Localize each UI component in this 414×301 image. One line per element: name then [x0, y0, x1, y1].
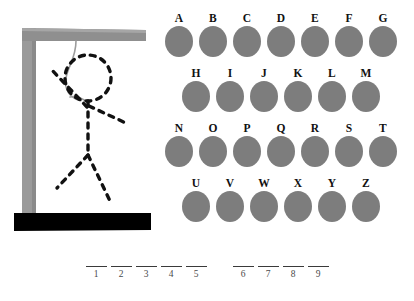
- letter-button-l[interactable]: L: [317, 67, 351, 122]
- letter-disc[interactable]: [250, 191, 278, 222]
- letter-button-q[interactable]: Q: [266, 122, 300, 177]
- letter-button-u[interactable]: U: [181, 177, 215, 232]
- gallows-illustration: [0, 0, 160, 245]
- letter-disc[interactable]: [165, 136, 193, 167]
- letter-label: O: [198, 122, 228, 135]
- letter-button-t[interactable]: T: [368, 122, 402, 177]
- letter-button-o[interactable]: O: [198, 122, 232, 177]
- letter-disc[interactable]: [284, 191, 312, 222]
- letter-disc[interactable]: [199, 26, 227, 57]
- letter-button-i[interactable]: I: [215, 67, 249, 122]
- letter-button-f[interactable]: F: [334, 12, 368, 67]
- letter-button-d[interactable]: D: [266, 12, 300, 67]
- letter-disc[interactable]: [182, 81, 210, 112]
- letter-label: G: [368, 12, 398, 25]
- letter-disc[interactable]: [301, 136, 329, 167]
- letter-button-g[interactable]: G: [368, 12, 402, 67]
- letter-disc[interactable]: [369, 26, 397, 57]
- blank-slot: 7: [258, 255, 279, 280]
- letter-disc[interactable]: [165, 26, 193, 57]
- letter-disc[interactable]: [199, 136, 227, 167]
- blank-letter: [186, 255, 207, 266]
- letter-disc[interactable]: [250, 81, 278, 112]
- blank-line: [111, 266, 132, 267]
- letter-label: A: [164, 12, 194, 25]
- letter-label: J: [249, 67, 279, 80]
- blank-slot: 5: [186, 255, 207, 280]
- figure-left-leg: [57, 155, 88, 188]
- figure-left-arm: [50, 68, 87, 107]
- blank-slot: 1: [86, 255, 107, 280]
- blank-slot: 6: [233, 255, 254, 280]
- blank-slot: 9: [308, 255, 329, 280]
- blank-slot: 2: [111, 255, 132, 280]
- blank-number: 9: [308, 268, 329, 280]
- letter-button-a[interactable]: A: [164, 12, 198, 67]
- letter-button-y[interactable]: Y: [317, 177, 351, 232]
- figure-right-leg: [88, 155, 111, 203]
- letter-disc[interactable]: [216, 81, 244, 112]
- letter-button-v[interactable]: V: [215, 177, 249, 232]
- letter-disc[interactable]: [267, 136, 295, 167]
- letter-button-c[interactable]: C: [232, 12, 266, 67]
- letter-row-1: A B C D E F G: [164, 12, 412, 67]
- letter-disc[interactable]: [352, 191, 380, 222]
- letter-row-2: H I J K L M: [164, 67, 412, 122]
- letter-disc[interactable]: [267, 26, 295, 57]
- letter-disc[interactable]: [335, 26, 363, 57]
- blank-letter: [233, 255, 254, 266]
- blank-line: [233, 266, 254, 267]
- letter-button-w[interactable]: W: [249, 177, 283, 232]
- letter-button-s[interactable]: S: [334, 122, 368, 177]
- gallows-post-shadow: [32, 28, 36, 215]
- letter-label: Q: [266, 122, 296, 135]
- hangman-game-stage: A B C D E F G: [0, 0, 414, 301]
- letter-disc[interactable]: [335, 136, 363, 167]
- letter-label: C: [232, 12, 262, 25]
- letter-disc[interactable]: [284, 81, 312, 112]
- letter-disc[interactable]: [301, 26, 329, 57]
- letter-button-j[interactable]: J: [249, 67, 283, 122]
- letter-disc[interactable]: [369, 136, 397, 167]
- letter-button-z[interactable]: Z: [351, 177, 385, 232]
- blank-number: 1: [86, 268, 107, 280]
- blank-line: [308, 266, 329, 267]
- letter-button-b[interactable]: B: [198, 12, 232, 67]
- blank-number: 3: [136, 268, 157, 280]
- letter-disc[interactable]: [216, 191, 244, 222]
- letter-button-e[interactable]: E: [300, 12, 334, 67]
- letter-button-k[interactable]: K: [283, 67, 317, 122]
- letter-button-p[interactable]: P: [232, 122, 266, 177]
- letter-label: M: [351, 67, 381, 80]
- letter-label: N: [164, 122, 194, 135]
- blank-line: [186, 266, 207, 267]
- letter-button-x[interactable]: X: [283, 177, 317, 232]
- letter-label: F: [334, 12, 364, 25]
- blank-line: [86, 266, 107, 267]
- letter-disc[interactable]: [233, 26, 261, 57]
- letter-label: E: [300, 12, 330, 25]
- letter-row-4: U V W X Y Z: [164, 177, 412, 232]
- blank-number: 4: [161, 268, 182, 280]
- letter-disc[interactable]: [318, 81, 346, 112]
- blank-group-1: 1 2 3 4: [86, 255, 207, 280]
- gallows-area: [0, 0, 160, 245]
- letter-button-h[interactable]: H: [181, 67, 215, 122]
- letter-label: K: [283, 67, 313, 80]
- letter-button-m[interactable]: M: [351, 67, 385, 122]
- letter-button-n[interactable]: N: [164, 122, 198, 177]
- blank-number: 8: [283, 268, 304, 280]
- letter-label: L: [317, 67, 347, 80]
- letter-button-r[interactable]: R: [300, 122, 334, 177]
- letter-label: R: [300, 122, 330, 135]
- letter-disc[interactable]: [182, 191, 210, 222]
- blank-slot: 8: [283, 255, 304, 280]
- letter-disc[interactable]: [318, 191, 346, 222]
- blank-line: [258, 266, 279, 267]
- blank-line: [161, 266, 182, 267]
- letter-label: D: [266, 12, 296, 25]
- letter-disc[interactable]: [233, 136, 261, 167]
- blank-slot: 3: [136, 255, 157, 280]
- blank-line: [283, 266, 304, 267]
- letter-disc[interactable]: [352, 81, 380, 112]
